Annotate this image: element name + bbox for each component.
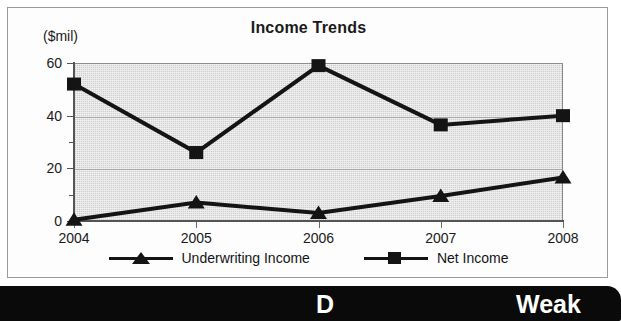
chart-panel: Income Trends ($mil) 0204060 20042005200… xyxy=(7,7,608,278)
rating-bar: D Weak xyxy=(0,286,621,321)
series-line xyxy=(74,66,563,153)
square-data-marker xyxy=(67,78,81,91)
square-marker-icon xyxy=(364,250,428,266)
triangle-marker-icon xyxy=(109,250,173,266)
legend-label-underwriting-income: Underwriting Income xyxy=(182,250,310,266)
legend-item-net-income[interactable]: Net Income xyxy=(364,250,509,266)
rating-grade: D xyxy=(316,287,334,321)
series-plot xyxy=(8,8,609,279)
square-data-marker xyxy=(189,146,203,159)
square-data-marker xyxy=(556,109,570,122)
square-data-marker xyxy=(434,118,448,131)
legend-item-underwriting-income[interactable]: Underwriting Income xyxy=(109,250,310,266)
legend: Underwriting Income Net Income xyxy=(8,250,609,266)
series-net-income xyxy=(67,59,570,159)
rating-descriptor: Weak xyxy=(516,287,581,321)
square-data-marker xyxy=(312,59,326,72)
series-underwriting-income xyxy=(66,170,572,226)
legend-label-net-income: Net Income xyxy=(437,250,509,266)
